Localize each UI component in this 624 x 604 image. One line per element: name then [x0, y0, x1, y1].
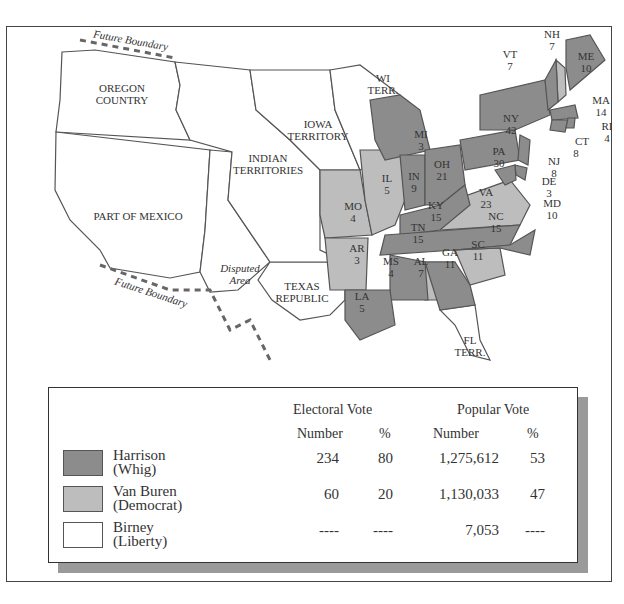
svg-text:TEXAS: TEXAS — [284, 280, 319, 292]
pop-number: 1,130,033 — [409, 486, 499, 503]
svg-text:15: 15 — [491, 222, 503, 234]
svg-text:7: 7 — [418, 267, 424, 279]
ev-percent: 80 — [359, 450, 393, 467]
candidate-name: Birney — [113, 520, 167, 534]
svg-text:ME: ME — [578, 50, 595, 62]
svg-text:TERR.: TERR. — [368, 84, 399, 96]
svg-text:30: 30 — [494, 157, 506, 169]
ev-percent-header: % — [379, 426, 391, 442]
svg-text:11: 11 — [473, 250, 484, 262]
svg-text:7: 7 — [549, 40, 555, 52]
svg-text:5: 5 — [384, 184, 390, 196]
state-vt — [545, 60, 558, 110]
svg-text:NJ: NJ — [548, 155, 561, 167]
svg-text:NC: NC — [488, 210, 503, 222]
van-buren-swatch — [63, 486, 103, 512]
svg-text:OREGON: OREGON — [99, 82, 145, 94]
party-name: (Democrat) — [113, 498, 182, 512]
state-ri — [566, 118, 575, 128]
svg-text:15: 15 — [431, 211, 443, 223]
svg-text:14: 14 — [596, 106, 608, 118]
state-ct — [550, 120, 568, 132]
svg-text:MS: MS — [383, 255, 399, 267]
popular-vote-header: Popular Vote — [457, 402, 529, 418]
svg-text:IL: IL — [382, 172, 393, 184]
electoral-vote-header: Electoral Vote — [293, 402, 372, 418]
svg-text:WI: WI — [376, 72, 390, 84]
svg-text:VA: VA — [479, 186, 494, 198]
svg-text:PART OF MEXICO: PART OF MEXICO — [93, 210, 182, 222]
svg-text:GA: GA — [442, 246, 458, 258]
svg-text:Future Boundary: Future Boundary — [112, 274, 189, 309]
svg-text:NY: NY — [503, 112, 519, 124]
svg-text:IOWA: IOWA — [304, 118, 333, 130]
svg-text:KY: KY — [428, 199, 444, 211]
ev-number-header: Number — [297, 426, 343, 442]
state-pa — [460, 130, 520, 170]
svg-text:15: 15 — [413, 233, 425, 245]
svg-text:21: 21 — [437, 170, 448, 182]
svg-text:5: 5 — [359, 302, 365, 314]
ev-number: ---- — [299, 522, 339, 539]
legend-table: Electoral Vote Popular Vote Number % Num… — [48, 387, 578, 563]
svg-text:Area: Area — [229, 274, 251, 286]
svg-text:MD: MD — [543, 197, 561, 209]
svg-text:FL: FL — [464, 334, 477, 346]
ev-number: 60 — [299, 486, 339, 503]
svg-text:VT: VT — [503, 48, 518, 60]
svg-text:SC: SC — [471, 238, 484, 250]
ev-percent: 20 — [359, 486, 393, 503]
svg-text:CT: CT — [575, 135, 589, 147]
svg-text:42: 42 — [506, 124, 517, 136]
birney-swatch — [63, 522, 103, 548]
svg-text:NH: NH — [544, 28, 560, 40]
svg-text:3: 3 — [354, 254, 360, 266]
candidate-name: Harrison — [113, 448, 166, 462]
state-la — [345, 290, 395, 340]
svg-text:11: 11 — [445, 258, 456, 270]
candidate-name: Van Buren — [113, 484, 182, 498]
svg-text:TERRITORIES: TERRITORIES — [233, 164, 303, 176]
svg-text:AL: AL — [414, 255, 429, 267]
svg-text:23: 23 — [481, 198, 493, 210]
ev-number: 234 — [299, 450, 339, 467]
svg-text:10: 10 — [581, 62, 593, 74]
region-part-of-mexico — [55, 132, 210, 278]
svg-text:COUNTRY: COUNTRY — [96, 94, 149, 106]
svg-text:3: 3 — [418, 140, 424, 152]
svg-text:Future Boundary: Future Boundary — [91, 27, 169, 52]
svg-text:MO: MO — [344, 200, 362, 212]
pop-percent-header: % — [527, 426, 539, 442]
svg-text:PA: PA — [492, 145, 505, 157]
svg-text:TERR.: TERR. — [455, 346, 486, 358]
state-nj — [518, 135, 530, 165]
pop-number-header: Number — [433, 426, 479, 442]
svg-text:MI: MI — [414, 128, 428, 140]
party-name: (Whig) — [113, 462, 166, 476]
pop-percent: ---- — [515, 522, 545, 539]
svg-text:RI: RI — [602, 120, 613, 132]
svg-text:OH: OH — [434, 158, 450, 170]
pop-number: 7,053 — [409, 522, 499, 539]
svg-text:9: 9 — [411, 182, 417, 194]
svg-text:10: 10 — [547, 209, 559, 221]
pop-number: 1,275,612 — [409, 450, 499, 467]
svg-text:REPUBLIC: REPUBLIC — [275, 292, 328, 304]
svg-text:4: 4 — [388, 267, 394, 279]
svg-text:Disputed: Disputed — [219, 262, 260, 274]
pop-percent: 53 — [515, 450, 545, 467]
svg-text:TERRITORY: TERRITORY — [288, 130, 349, 142]
election-map: OREGON COUNTRY IOWA TERRITORY INDIAN TER… — [0, 0, 624, 380]
svg-text:8: 8 — [573, 147, 579, 159]
state-de — [515, 165, 527, 180]
svg-text:INDIAN: INDIAN — [248, 152, 287, 164]
party-name: (Liberty) — [113, 534, 167, 548]
svg-text:LA: LA — [355, 290, 370, 302]
pop-percent: 47 — [515, 486, 545, 503]
svg-text:MA: MA — [592, 94, 610, 106]
svg-text:TN: TN — [411, 221, 426, 233]
harrison-swatch — [63, 450, 103, 476]
svg-text:7: 7 — [507, 60, 513, 72]
svg-text:4: 4 — [350, 212, 356, 224]
svg-text:AR: AR — [349, 242, 365, 254]
